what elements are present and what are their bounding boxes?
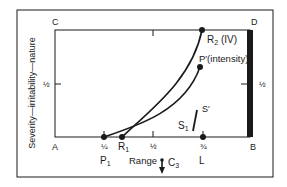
- p1-dot: [101, 134, 107, 140]
- r1-dot: [119, 134, 125, 140]
- right-half-label: ½: [259, 80, 266, 89]
- y-axis-label: Severity—irritability—nature: [27, 37, 37, 149]
- left-half-label: ½: [43, 80, 50, 89]
- r2-label: R2 (IV): [207, 34, 237, 46]
- corner-c: C: [52, 17, 59, 27]
- plot-box: [55, 30, 250, 137]
- c3-arrow-dot: [160, 158, 164, 162]
- x-tick-half: ½: [150, 142, 157, 151]
- l-dot: [200, 134, 206, 140]
- curve-r1-r2: [122, 30, 202, 137]
- sprime-label: S′: [202, 104, 210, 114]
- r1-label: R1: [118, 141, 129, 153]
- x-tick-quarter: ¼: [101, 142, 108, 151]
- l-label: L: [199, 155, 205, 166]
- p1-label: P1: [100, 155, 111, 167]
- range-severity-diagram: Severity—irritability—nature C D A B ½ ½…: [0, 0, 287, 187]
- c3-arrow-icon: [159, 167, 165, 174]
- r2-dot: [199, 27, 205, 33]
- s1-sprime-line: [193, 110, 197, 131]
- corner-a: A: [52, 142, 58, 152]
- pprime-dot: [197, 64, 203, 70]
- x-tick-three-quarter: ¾: [200, 142, 207, 151]
- s1-label: S1: [178, 120, 189, 132]
- pprime-label: P′(intensity): [199, 53, 248, 64]
- c3-label: C3: [168, 157, 179, 169]
- thick-bar-db: [247, 30, 253, 137]
- corner-b: B: [250, 142, 256, 152]
- corner-d: D: [251, 17, 258, 27]
- range-label: Range: [129, 155, 157, 166]
